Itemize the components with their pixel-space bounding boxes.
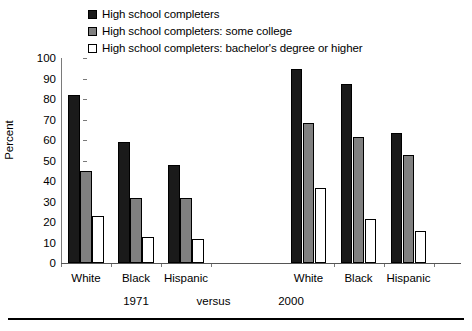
y-axis-tick-60: 60	[26, 135, 56, 146]
era-label-1971: 1971	[111, 295, 161, 307]
legend-item-high-school-completers: High school completers	[88, 6, 448, 22]
y-axis-tick-40: 40	[26, 176, 56, 187]
legend-label-series-2: High school completers: bachelor's degre…	[102, 42, 362, 54]
bar	[391, 133, 403, 263]
y-axis-tick-100: 100	[26, 53, 56, 64]
bottom-divider	[8, 318, 464, 320]
x-axis-label-white-2000: White	[284, 272, 334, 284]
bar-group	[118, 58, 154, 263]
bar	[291, 69, 303, 263]
y-axis-title: Percent	[3, 95, 15, 185]
x-axis-label-black-2000: Black	[334, 272, 384, 284]
bar-group	[168, 58, 204, 263]
bar	[68, 95, 80, 263]
axes	[61, 58, 461, 264]
bar	[192, 239, 204, 263]
y-axis-tick-70: 70	[26, 114, 56, 125]
y-axis-tick-20: 20	[26, 217, 56, 228]
era-label-versus: versus	[189, 295, 239, 307]
y-axis-tick-0: 0	[26, 258, 56, 269]
bar-group	[291, 58, 327, 263]
legend-swatch-series-0	[88, 10, 97, 19]
y-axis-tick-80: 80	[26, 94, 56, 105]
y-axis-tick-10: 10	[26, 237, 56, 248]
legend-item-bachelors-or-higher: High school completers: bachelor's degre…	[88, 40, 448, 56]
y-axis-tick-30: 30	[26, 196, 56, 207]
x-axis-category-labels: WhiteBlackHispanicWhiteBlackHispanic	[61, 272, 461, 290]
bars-container	[61, 58, 461, 263]
y-axis-tick-labels: 1009080706050403020100	[26, 58, 56, 264]
bar	[415, 231, 427, 263]
legend-label-series-0: High school completers	[102, 8, 219, 20]
plot-area: Percent 1009080706050403020100	[0, 58, 472, 278]
legend-swatch-series-2	[88, 44, 97, 53]
bar	[341, 84, 353, 263]
bar-group	[341, 58, 377, 263]
y-axis-tick-90: 90	[26, 73, 56, 84]
y-axis-tick-50: 50	[26, 155, 56, 166]
x-axis-label-hispanic-1971: Hispanic	[161, 272, 211, 284]
x-axis-label-white-1971: White	[61, 272, 111, 284]
bar	[168, 165, 180, 263]
legend-label-series-1: High school completers: some college	[102, 25, 292, 37]
bar	[353, 137, 365, 263]
legend-swatch-series-1	[88, 27, 97, 36]
bar-group	[391, 58, 427, 263]
bar	[92, 216, 104, 263]
x-axis-label-black-1971: Black	[111, 272, 161, 284]
bar	[180, 198, 192, 263]
bar	[365, 219, 377, 263]
legend-item-some-college: High school completers: some college	[88, 23, 448, 39]
bar	[80, 171, 92, 263]
bar	[403, 155, 415, 263]
chart-legend: High school completers High school compl…	[88, 6, 448, 57]
chart-figure: High school completers High school compl…	[0, 0, 472, 331]
bar	[130, 198, 142, 263]
x-axis-era-labels: 1971versus2000	[61, 295, 461, 311]
bar	[315, 188, 327, 263]
x-axis-line	[61, 263, 461, 264]
bar	[118, 142, 130, 263]
bar	[142, 237, 154, 263]
bar-group	[68, 58, 104, 263]
era-label-2000: 2000	[266, 295, 316, 307]
bar	[303, 123, 315, 263]
x-axis-label-hispanic-2000: Hispanic	[384, 272, 434, 284]
